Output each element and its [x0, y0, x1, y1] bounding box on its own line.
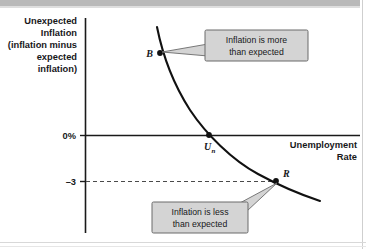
- y-axis-title-line-5: inflation): [38, 64, 77, 74]
- callout-less-line-2: than expected: [173, 219, 228, 229]
- data-point-r-label: R: [282, 168, 290, 179]
- x-axis-title-line-1: Unemployment: [290, 140, 357, 150]
- callout-less-line-1: Inflation is less: [172, 207, 230, 217]
- data-point-un-label-subscript: n: [212, 147, 216, 155]
- x-axis-title-line-2: Rate: [337, 152, 357, 162]
- y-tick-label-0: 0%: [63, 131, 77, 141]
- y-axis-title-line-1: Unexpected: [24, 16, 77, 26]
- y-axis-title-line-2: Inflation: [41, 28, 77, 38]
- data-point-b-label: B: [145, 48, 153, 59]
- callout-more-pointer: [162, 44, 208, 56]
- y-axis-title-line-4: expected: [37, 52, 78, 62]
- data-point-b-marker: [157, 50, 163, 56]
- figure-root: Unexpected Inflation (inflation minus ex…: [0, 0, 366, 249]
- phillips-curve-chart: Unexpected Inflation (inflation minus ex…: [0, 0, 366, 249]
- data-point-un-marker: [206, 132, 212, 138]
- callout-more-line-2: than expected: [229, 47, 284, 57]
- y-tick-label-neg3: –3: [66, 177, 76, 187]
- y-axis-title-line-3: (inflation minus: [8, 40, 77, 50]
- callout-more-line-1: Inflation is more: [226, 35, 287, 45]
